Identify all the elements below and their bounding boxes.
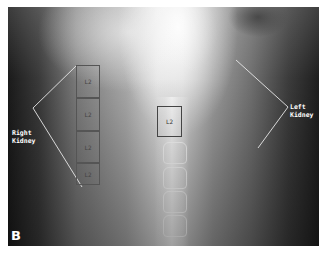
spine-l2-box: L2 bbox=[157, 106, 182, 137]
right-kidney-box-4: L2 bbox=[76, 163, 100, 185]
left-kidney-label: Left Kidney bbox=[290, 103, 313, 119]
right-kidney-box-3: L2 bbox=[76, 131, 100, 163]
panel-label: B bbox=[11, 229, 21, 242]
right-kidney-box-1: L2 bbox=[76, 65, 100, 98]
right-kidney-box-2: L2 bbox=[76, 98, 100, 131]
right-kidney-label: Right Kidney bbox=[12, 129, 35, 145]
